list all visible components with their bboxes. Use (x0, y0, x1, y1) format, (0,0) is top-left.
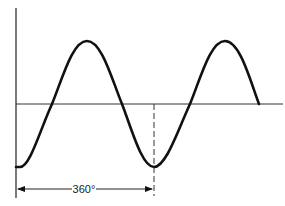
period-label: 360° (73, 183, 96, 195)
sine-wave-diagram: 360° (0, 0, 285, 206)
